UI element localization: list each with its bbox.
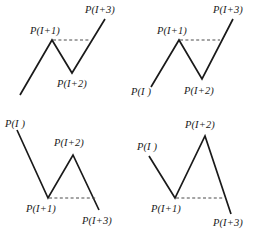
panel-4-label-p-i-plus-3: P(I+3) xyxy=(213,218,243,229)
panel-1-plot xyxy=(0,0,126,119)
panel-2-label-p-i-plus-2: P(I+2) xyxy=(184,86,214,97)
panel-2-label-p-i-plus-1: P(I+1) xyxy=(157,26,187,37)
panel-3-label-p-i-plus-2: P(I+2) xyxy=(54,138,84,149)
panel-top-left: P(I+1) P(I+2) P(I+3) xyxy=(0,0,126,119)
panel-3-label-p-i: P(I ) xyxy=(5,119,25,130)
panel-top-right: P(I ) P(I+1) P(I+2) P(I+3) xyxy=(127,0,253,119)
panel-4-label-p-i: P(I ) xyxy=(137,142,157,153)
panel-3-label-p-i-plus-1: P(I+1) xyxy=(26,204,56,215)
panel-4-label-p-i-plus-1: P(I+1) xyxy=(151,204,181,215)
panel-1-label-p-i-plus-2: P(I+2) xyxy=(57,79,87,90)
panel-1-label-p-i-plus-3: P(I+3) xyxy=(85,5,115,16)
panel-3-label-p-i-plus-3: P(I+3) xyxy=(82,216,112,227)
panel-bottom-left: P(I ) P(I+1) P(I+2) P(I+3) xyxy=(0,119,126,238)
panel-1-label-p-i-plus-1: P(I+1) xyxy=(30,26,60,37)
panel-2-label-p-i-plus-3: P(I+3) xyxy=(213,5,243,16)
panel-2-label-p-i: P(I ) xyxy=(131,87,151,98)
panel-4-label-p-i-plus-2: P(I+2) xyxy=(185,120,215,131)
pattern-figure: P(I+1) P(I+2) P(I+3) P(I ) P(I+1) P(I+2)… xyxy=(0,0,253,238)
panel-bottom-right: P(I ) P(I+1) P(I+2) P(I+3) xyxy=(127,119,253,238)
panel-2-plot xyxy=(127,0,253,119)
